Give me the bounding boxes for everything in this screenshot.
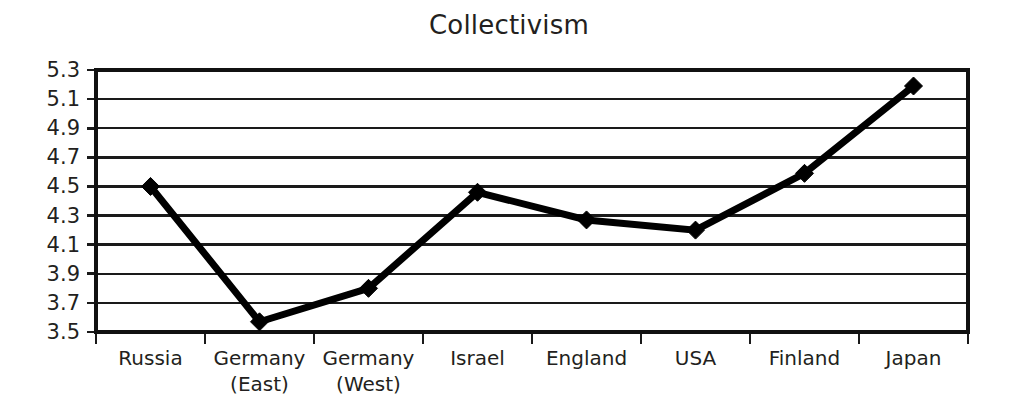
y-axis-tick-label: 5.3 xyxy=(47,58,80,82)
x-axis-tick-label: England xyxy=(546,346,627,370)
series-line-collectivism xyxy=(151,86,914,322)
x-axis-tick-label: Finland xyxy=(769,346,840,370)
x-axis-tick-label: Israel xyxy=(450,346,505,370)
chart-figure: Collectivism 5.35.14.94.74.54.34.13.93.7… xyxy=(0,0,1018,409)
gridlines-group xyxy=(96,70,968,332)
y-axis-tick-label: 5.1 xyxy=(47,87,80,111)
axis-frame-group xyxy=(96,70,968,332)
data-series-group xyxy=(151,86,914,322)
y-axis-tick-label: 4.9 xyxy=(47,116,80,140)
y-axis-tick-label: 4.3 xyxy=(47,204,80,228)
x-axis-tick-label: Japan xyxy=(884,346,942,370)
x-axis-tick-label: Russia xyxy=(118,346,182,370)
y-axis-tick-labels: 5.35.14.94.74.54.34.13.93.73.5 xyxy=(47,58,80,344)
y-axis-tick-label: 3.7 xyxy=(47,291,80,315)
x-axis-tick-label: Germany(West) xyxy=(323,346,415,396)
y-axis-tick-label: 4.5 xyxy=(47,174,80,198)
plot-frame xyxy=(96,70,968,332)
x-axis-tick-labels: RussiaGermany(East)Germany(West)IsraelEn… xyxy=(118,346,941,396)
y-axis-tick-label: 3.5 xyxy=(47,320,80,344)
x-axis-tick-label: Germany(East) xyxy=(214,346,306,396)
y-axis-tick-label: 3.9 xyxy=(47,262,80,286)
plot-area: 5.35.14.94.74.54.34.13.93.73.5 RussiaGer… xyxy=(0,0,1018,409)
y-axis-tick-label: 4.7 xyxy=(47,145,80,169)
data-point-marker xyxy=(578,211,596,229)
line-chart-svg: 5.35.14.94.74.54.34.13.93.73.5 RussiaGer… xyxy=(0,0,1018,409)
x-axis-tick-label: USA xyxy=(675,346,717,370)
y-axis-tick-label: 4.1 xyxy=(47,233,80,257)
